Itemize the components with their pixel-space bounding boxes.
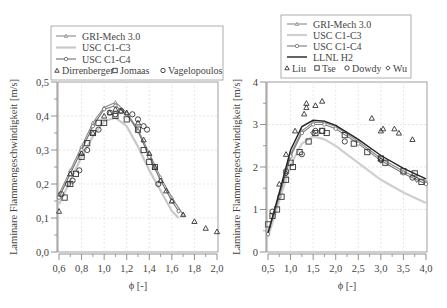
- legend-marker: [64, 57, 67, 60]
- x-tick-label: 3,5: [397, 263, 410, 274]
- right-chart: 0,51,01,52,02,53,03,54,001234 ϕ [-] Lami…: [231, 15, 433, 291]
- legend-label: USC C1-C3: [313, 30, 362, 41]
- y-tick-label: 0: [253, 247, 258, 258]
- line-point-marker: [424, 182, 427, 185]
- y-tick-label: 0,0: [36, 247, 49, 258]
- left-legend: GRI-Mech 3.0USC C1-C3USC C1-C4Dirrenberg…: [51, 26, 223, 80]
- legend-label: Wu: [393, 63, 407, 74]
- line-point-marker: [357, 142, 360, 145]
- x-tick-label: 1,2: [120, 263, 133, 274]
- legend-label: GRI-Mech 3.0: [313, 19, 371, 30]
- x-tick-label: 0,8: [75, 263, 88, 274]
- line-point-marker: [323, 123, 326, 126]
- line-point-marker: [177, 210, 180, 213]
- y-tick-label: 0,5: [36, 77, 49, 88]
- right-y-axis-title: Laminare Flammengeschwindigkeit [m/s]: [231, 79, 242, 255]
- legend-label: USC C1-C3: [82, 42, 131, 53]
- x-tick-label: 1,0: [284, 263, 297, 274]
- x-tick-label: 1,4: [143, 263, 157, 274]
- y-tick-label: 2: [253, 162, 258, 173]
- x-tick-label: 1,6: [165, 263, 178, 274]
- right-legend: GRI-Mech 3.0USC C1-C3USC C1-C4LLNL H2Liu…: [281, 15, 411, 78]
- legend-label: Vagelopoulos: [168, 65, 223, 76]
- legend-label: Liu: [292, 63, 306, 74]
- x-tick-label: 4,0: [419, 263, 432, 274]
- y-tick-label: 0,4: [36, 111, 50, 122]
- line-point-marker: [300, 131, 303, 134]
- line-point-marker: [91, 125, 94, 128]
- legend-label: Tse: [322, 63, 336, 74]
- line-point-marker: [311, 123, 314, 126]
- x-tick-label: 1,0: [98, 263, 111, 274]
- legend-label: Dirrenberger: [62, 65, 114, 76]
- left-chart: 0,60,81,01,21,41,61,82,00,00,10,20,30,40…: [8, 26, 224, 291]
- x-tick-label: 0,5: [261, 263, 274, 274]
- right-x-axis-title: ϕ [-]: [338, 280, 357, 291]
- x-tick-label: 1,8: [188, 263, 201, 274]
- legend-label: LLNL H2: [313, 52, 353, 63]
- y-tick-label: 0,3: [36, 145, 49, 156]
- y-tick-label: 0,2: [36, 179, 49, 190]
- legend-label: GRI-Mech 3.0: [82, 31, 140, 42]
- left-plot-frame: [58, 82, 218, 252]
- line-point-marker: [334, 127, 337, 130]
- legend-label: Jomaas: [120, 65, 150, 76]
- x-tick-label: 2,0: [329, 263, 342, 274]
- y-tick-label: 0,1: [36, 213, 49, 224]
- legend-label: Dowdy: [352, 63, 381, 74]
- legend-label: USC C1-C4: [82, 54, 131, 65]
- y-tick-label: 1: [253, 204, 258, 215]
- x-tick-label: 2,0: [210, 263, 223, 274]
- legend-marker: [295, 44, 298, 47]
- left-y-axis-title: Laminare Flammengeschwindigkeit [m/s]: [8, 79, 19, 255]
- x-tick-label: 3,0: [374, 263, 387, 274]
- line-point-marker: [266, 232, 269, 235]
- line-point-marker: [402, 172, 405, 175]
- y-tick-label: 4: [253, 77, 259, 88]
- x-tick-label: 0,6: [52, 263, 65, 274]
- legend-label: USC C1-C4: [313, 41, 362, 52]
- figure-canvas: 0,60,81,01,21,41,61,82,00,00,10,20,30,40…: [0, 0, 447, 308]
- line-point-marker: [102, 108, 105, 111]
- x-tick-label: 1,5: [307, 263, 320, 274]
- left-x-axis-title: ϕ [-]: [129, 280, 148, 291]
- x-tick-label: 2,5: [352, 263, 365, 274]
- y-tick-label: 3: [253, 119, 258, 130]
